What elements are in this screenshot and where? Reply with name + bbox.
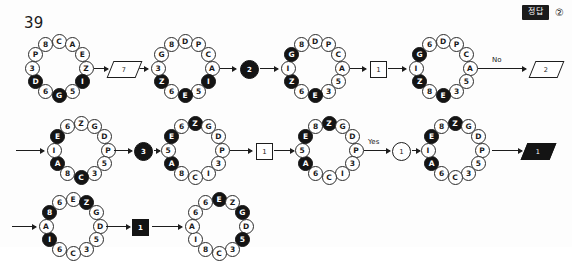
ring-node: E — [178, 88, 193, 103]
ring-node: 3 — [449, 84, 464, 99]
flow-arrow-icon — [478, 68, 526, 69]
ring-diagram: ZGDP3IC6A5E8 — [296, 117, 362, 183]
flow-arrow-icon — [12, 226, 36, 227]
ring-diagram: DPCA53E8ZIG6 — [410, 35, 476, 101]
answer-badge-chip: 정답 — [522, 5, 549, 20]
ring-node: 3 — [25, 61, 40, 76]
branch-label: Yes — [368, 138, 379, 146]
answer-badge: 정답 ② — [522, 5, 564, 20]
ring-node: 3 — [461, 166, 476, 181]
ring-node: I — [409, 61, 424, 76]
flow-arrow-icon — [94, 68, 108, 69]
operator-value: 1 — [376, 66, 380, 74]
ring-node: E — [436, 88, 451, 103]
flow-row-2: ZGDP53C8AIE6ZGDP3IC8A5E6ZGDP3IC6A5E8ZGDP… — [0, 114, 572, 190]
ring-node: C — [322, 170, 337, 185]
flow-row-1: CAEZI5G6D3P8DPCAI5E6Z3G8DPCA53E6ZIG8DPCA… — [0, 32, 572, 108]
ring-node: I — [47, 143, 62, 158]
ring-diagram: DPCAI5E6Z3G8 — [152, 35, 218, 101]
flow-arrow-icon — [350, 68, 366, 69]
ring-node: 8 — [38, 37, 53, 52]
ring-node: 6 — [198, 195, 213, 210]
ring-diagram: ZGDP53C8AIE6 — [48, 117, 114, 183]
ring-node: C — [74, 170, 89, 185]
ring-node: 8 — [164, 37, 179, 52]
ring-node: G — [52, 88, 67, 103]
operator-value: 1 — [262, 148, 266, 156]
flow-arrow-icon — [230, 150, 252, 151]
flow-arrow-icon — [364, 150, 390, 151]
operator-value: 2 — [544, 66, 548, 74]
flow-arrow-icon — [220, 68, 236, 69]
operator-square: 1 — [256, 143, 273, 160]
ring-node: A — [185, 219, 200, 234]
ring-node: 6 — [52, 195, 67, 210]
operator-value: 1 — [536, 148, 540, 156]
flow-arrow-icon — [114, 150, 132, 151]
ring-node: 3 — [87, 166, 102, 181]
ring-node: D — [97, 129, 112, 144]
ring-node: 3 — [321, 84, 336, 99]
ring-node: 5 — [295, 143, 310, 158]
ring-diagram: CAEZI5G6D3P8 — [26, 35, 92, 101]
answer-choice: ② — [555, 7, 564, 18]
ring-node: C — [459, 47, 474, 62]
ring-node: C — [188, 170, 203, 185]
ring-node: 3 — [225, 242, 240, 257]
flow-arrow-icon — [152, 226, 182, 227]
question-number: 39 — [24, 14, 44, 32]
ring-node: 5 — [65, 84, 80, 99]
ring-node: A — [39, 219, 54, 234]
operator-circle-filled: 3 — [134, 142, 153, 161]
ring-node: I — [201, 166, 216, 181]
ring-node: C — [448, 170, 463, 185]
flow-arrow-icon — [412, 150, 420, 151]
ring-node: C — [331, 47, 346, 62]
flow-row-3: EZGD53C6IA86EZGD53C8IA661 — [0, 190, 572, 247]
ring-node: C — [212, 246, 227, 261]
flow-arrow-icon — [274, 150, 294, 151]
ring-node: C — [66, 246, 81, 261]
ring-node: D — [211, 129, 226, 144]
ring-diagram: ZGDP3IC8A5E6 — [162, 117, 228, 183]
ring-diagram: EZGD53C6IA86 — [40, 193, 106, 259]
ring-diagram: DPCA53E6ZIG8 — [282, 35, 348, 101]
ring-node: E — [75, 47, 90, 62]
operator-parallelogram: 2 — [529, 61, 565, 78]
ring-node: G — [89, 205, 104, 220]
ring-diagram: EZGD53C8IA66 — [186, 193, 252, 259]
flow-arrow-icon — [260, 68, 278, 69]
ring-node: 6 — [422, 37, 437, 52]
ring-node: E — [308, 88, 323, 103]
operator-parallelogram: 1 — [521, 143, 557, 160]
operator-value: 1 — [399, 148, 403, 156]
branch-label: No — [492, 56, 502, 64]
ring-node: I — [335, 166, 350, 181]
ring-node: G — [235, 205, 250, 220]
operator-value: 1 — [138, 224, 143, 232]
operator-value: 2 — [247, 66, 252, 74]
operator-value: 3 — [141, 148, 146, 156]
ring-node: 5 — [191, 84, 206, 99]
flow-arrow-icon — [492, 150, 522, 151]
ring-node: 6 — [60, 119, 75, 134]
flow-arrow-icon — [154, 150, 160, 151]
ring-node: D — [471, 129, 486, 144]
ring-node: 6 — [174, 119, 189, 134]
operator-parallelogram: 7 — [107, 61, 143, 78]
ring-node: 8 — [308, 119, 323, 134]
operator-square: 1 — [370, 61, 387, 78]
flow-arrow-icon — [16, 150, 44, 151]
ring-node: 3 — [79, 242, 94, 257]
ring-node: 5 — [161, 143, 176, 158]
flow-arrow-icon — [388, 68, 406, 69]
operator-square: 1 — [132, 219, 149, 236]
ring-node: 8 — [434, 119, 449, 134]
flow-arrow-icon — [106, 226, 130, 227]
operator-circle-filled: 2 — [240, 60, 259, 79]
operator-circle-open: 1 — [392, 142, 411, 161]
ring-node: D — [345, 129, 360, 144]
ring-node: 8 — [294, 37, 309, 52]
ring-diagram: ZGDP53C6AIE8 — [422, 117, 488, 183]
ring-node: C — [201, 47, 216, 62]
